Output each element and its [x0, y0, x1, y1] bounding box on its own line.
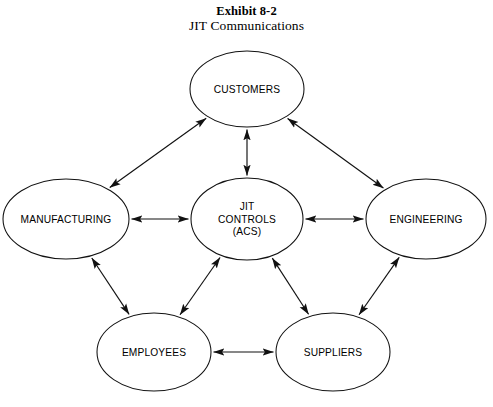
edge-customers-engineering — [288, 118, 384, 188]
edge-employees-jit-controls — [180, 258, 220, 315]
nodes-layer: CUSTOMERSMANUFACTURINGJITCONTROLS(ACS)EN… — [3, 51, 486, 391]
diagram-page: Exhibit 8-2 JIT Communications CUSTOMERS… — [0, 0, 493, 407]
node-label-jit-controls: JIT — [240, 201, 255, 212]
node-label-manufacturing: MANUFACTURING — [21, 214, 112, 225]
edge-jit-controls-suppliers — [272, 258, 308, 314]
node-label-jit-controls: CONTROLS — [218, 214, 276, 225]
node-label-customers: CUSTOMERS — [214, 84, 280, 95]
node-customers[interactable]: CUSTOMERS — [190, 51, 304, 127]
edge-manufacturing-customers — [110, 118, 206, 187]
node-label-suppliers: SUPPLIERS — [304, 347, 363, 358]
edge-suppliers-engineering — [359, 257, 399, 314]
node-label-employees: EMPLOYEES — [122, 347, 186, 358]
node-manufacturing[interactable]: MANUFACTURING — [3, 179, 129, 259]
node-label-engineering: ENGINEERING — [390, 214, 463, 225]
node-employees[interactable]: EMPLOYEES — [97, 313, 211, 391]
jit-communications-graph: CUSTOMERSMANUFACTURINGJITCONTROLS(ACS)EN… — [0, 0, 493, 407]
node-jit-controls[interactable]: JITCONTROLS(ACS) — [191, 178, 303, 260]
node-label-jit-controls: (ACS) — [233, 226, 261, 237]
node-engineering[interactable]: ENGINEERING — [366, 179, 486, 259]
edge-manufacturing-employees — [92, 258, 129, 314]
node-suppliers[interactable]: SUPPLIERS — [276, 313, 390, 391]
